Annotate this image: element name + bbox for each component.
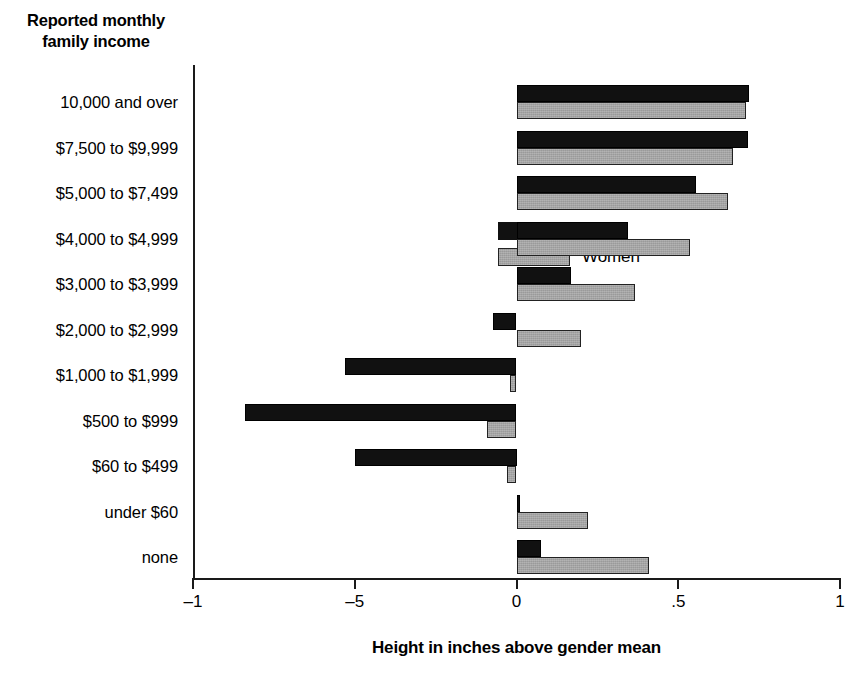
chart-figure: Reported monthly family income 10,000 an… xyxy=(0,0,866,675)
bar-women xyxy=(517,148,734,165)
bar-men xyxy=(493,313,517,330)
bar-men xyxy=(517,222,629,239)
bar-women xyxy=(517,284,635,301)
bar-men xyxy=(517,495,521,512)
x-axis-tick-mark xyxy=(677,578,679,589)
bar-women xyxy=(487,421,516,438)
category-label: $500 to $999 xyxy=(83,411,178,430)
category-label: 10,000 and over xyxy=(60,93,178,112)
category-label: $3,000 to $3,999 xyxy=(56,275,178,294)
y-axis-heading-line-2: family income xyxy=(6,31,186,52)
x-axis-tick-mark xyxy=(516,578,518,589)
category-label: $7,500 to $9,999 xyxy=(56,138,178,157)
y-axis-heading-line-1: Reported monthly xyxy=(6,10,186,31)
category-label: none xyxy=(142,548,178,567)
x-axis-tick-label: –1 xyxy=(184,592,203,612)
plot-area: Men Women –1–50.51 xyxy=(193,65,840,580)
bar-men xyxy=(517,131,748,148)
bar-women xyxy=(517,102,747,119)
x-axis-tick-label: 1 xyxy=(835,592,844,612)
bar-women xyxy=(510,375,516,392)
bar-men xyxy=(355,449,517,466)
category-label: $60 to $499 xyxy=(92,457,178,476)
x-axis-tick-label: –5 xyxy=(345,592,364,612)
y-axis-heading: Reported monthly family income xyxy=(6,10,186,52)
bar-women xyxy=(517,330,582,347)
bar-women xyxy=(517,512,588,529)
bar-men xyxy=(517,540,541,557)
y-axis-spine xyxy=(193,65,195,580)
category-label: $1,000 to $1,999 xyxy=(56,366,178,385)
bar-women xyxy=(507,466,517,483)
bar-men xyxy=(517,176,697,193)
bar-men xyxy=(245,404,517,421)
x-axis-tick-label: 0 xyxy=(512,592,521,612)
category-label: $2,000 to $2,999 xyxy=(56,320,178,339)
x-axis-tick-mark xyxy=(192,578,194,589)
category-label: $4,000 to $4,999 xyxy=(56,229,178,248)
bar-women xyxy=(517,239,690,256)
bar-men xyxy=(517,85,750,102)
category-label: $5,000 to $7,499 xyxy=(56,184,178,203)
x-axis-title: Height in inches above gender mean xyxy=(193,638,840,658)
x-axis-tick-mark xyxy=(354,578,356,589)
x-axis-tick-mark xyxy=(839,578,841,589)
bar-men xyxy=(517,267,572,284)
bar-men xyxy=(345,358,516,375)
category-axis-labels: 10,000 and over$7,500 to $9,999$5,000 to… xyxy=(0,65,186,580)
category-label: under $60 xyxy=(105,502,178,521)
bar-women xyxy=(517,557,650,574)
bar-women xyxy=(517,193,729,210)
x-axis-tick-label: .5 xyxy=(671,592,685,612)
